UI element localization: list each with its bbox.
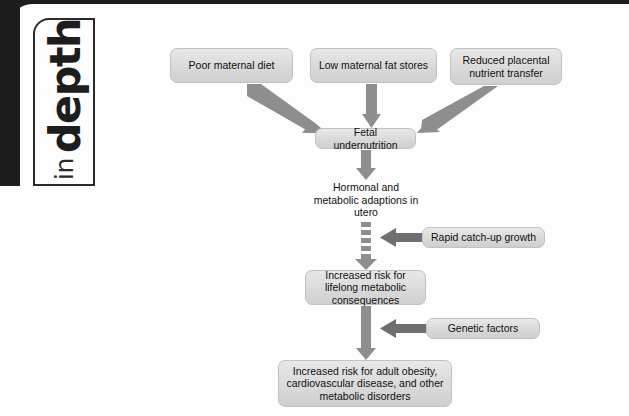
node-low-maternal-fat-stores[interactable]: Low maternal fat stores [310,48,437,83]
node-increased-risk-adult-obesity[interactable]: Increased risk for adult obesity, cardio… [278,360,452,407]
node-hormonal-metabolic-adaptions: Hormonal and metabolic adaptions in uter… [310,181,422,219]
flowchart-diagram: Poor maternal diet Low maternal fat stor… [0,0,629,416]
edge-placental-to-fetal [417,86,498,133]
edge-catchup-to-chain [380,228,424,247]
node-fetal-undernutrition[interactable]: Fetal undernutrition [315,128,416,149]
node-rapid-catch-up-growth[interactable]: Rapid catch-up growth [422,227,545,248]
node-increased-risk-lifelong-metabolic[interactable]: Increased risk for lifelong metabolic co… [305,270,426,305]
edge-fetal-to-hormonal [356,150,376,180]
edge-genetic-to-chain [380,319,426,338]
node-reduced-placental-nutrient-transfer[interactable]: Reduced placental nutrient transfer [450,48,562,85]
edge-fat-to-fetal [362,84,381,128]
edge-hormonal-to-lifelong [355,222,377,270]
edge-diet-to-fetal [247,84,327,133]
page-frame: in depth [0,0,629,416]
node-genetic-factors[interactable]: Genetic factors [426,318,540,339]
edge-lifelong-to-adult [356,306,376,360]
node-poor-maternal-diet[interactable]: Poor maternal diet [170,48,293,83]
